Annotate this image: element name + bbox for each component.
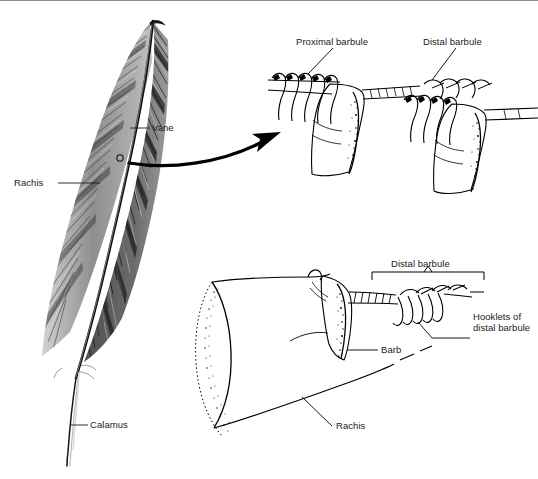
label-distal-barbule-top: Distal barbule bbox=[423, 36, 482, 48]
figure-canvas: Vane Rachis Calamus Proximal barbule Dis… bbox=[0, 0, 538, 479]
label-hooklets-line2: distal barbule bbox=[473, 322, 530, 334]
rachis-cut-stipple bbox=[204, 289, 229, 432]
barbule-interlock-detail bbox=[268, 48, 538, 194]
label-rachis-detail: Rachis bbox=[336, 420, 365, 432]
distal-barbule-dorsal-spines bbox=[400, 285, 467, 295]
label-barb: Barb bbox=[381, 344, 401, 356]
label-calamus: Calamus bbox=[90, 419, 128, 431]
barb-rachis-detail bbox=[196, 266, 484, 436]
whole-feather-illustration bbox=[35, 15, 185, 466]
label-proximal-barbule: Proximal barbule bbox=[296, 36, 368, 48]
label-distal-barbule-bottom: Distal barbule bbox=[391, 258, 450, 270]
illustration-layer bbox=[0, 0, 538, 479]
label-rachis-main: Rachis bbox=[14, 177, 43, 189]
leader-line-distal-barbule-top bbox=[432, 48, 456, 80]
feather-calamus-shaft bbox=[67, 378, 76, 466]
label-hooklets-line1: Hooklets of bbox=[473, 311, 521, 323]
leader-line-proximal-barbule bbox=[308, 48, 333, 74]
leader-line-hooklets bbox=[418, 322, 470, 338]
hooklets-of-distal-barbule bbox=[393, 293, 443, 325]
leader-line-rachis-detail bbox=[302, 397, 332, 426]
distal-barbule-hooklets-top bbox=[424, 79, 490, 99]
label-vane: Vane bbox=[152, 122, 174, 134]
